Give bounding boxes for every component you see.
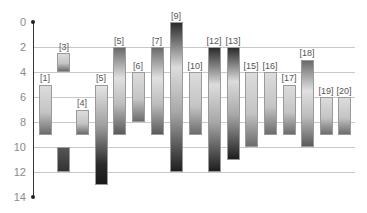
- bar-label-5a: [5]: [89, 73, 113, 83]
- bar-9: [170, 22, 183, 172]
- y-tick-0: 0: [2, 16, 26, 28]
- bar-label-13: [13]: [221, 36, 245, 46]
- bar-label-10: [10]: [183, 61, 207, 71]
- bar-label-7: [7]: [145, 36, 169, 46]
- y-tick-10: 10: [2, 141, 26, 153]
- y-axis-bottom-marker: [31, 195, 35, 199]
- bar-3-upper: [57, 53, 70, 72]
- bar-label-6: [6]: [126, 61, 150, 71]
- bar-10: [189, 72, 202, 135]
- bar-label-3: [3]: [52, 42, 76, 52]
- y-tick-8: 8: [2, 116, 26, 128]
- bar-label-16: [16]: [258, 61, 282, 71]
- bar-label-17: [17]: [277, 73, 301, 83]
- bar-18: [301, 60, 314, 148]
- y-tick-2: 2: [2, 41, 26, 53]
- bar-label-1: [1]: [33, 73, 57, 83]
- bar-1: [39, 85, 52, 135]
- bar-3-lower: [57, 147, 70, 172]
- bar-label-9: [9]: [164, 11, 188, 21]
- floating-bar-chart: 0 2 4 6 8 10 12 14 [1] [3] [4] [5] [5] […: [0, 0, 367, 213]
- bar-17: [283, 85, 296, 135]
- bar-6: [132, 72, 145, 122]
- y-tick-14: 14: [2, 191, 26, 203]
- bar-19: [320, 97, 333, 135]
- bar-16: [264, 72, 277, 135]
- bar-label-5b: [5]: [107, 36, 131, 46]
- bar-7: [151, 47, 164, 135]
- bar-12: [208, 47, 221, 172]
- gridline-12: [33, 172, 355, 173]
- bar-4: [76, 110, 89, 135]
- y-tick-6: 6: [2, 91, 26, 103]
- bar-label-20: [20]: [332, 86, 356, 96]
- y-axis-top-marker: [31, 20, 35, 24]
- gridline-10: [33, 147, 355, 148]
- y-tick-12: 12: [2, 166, 26, 178]
- bar-5b: [113, 47, 126, 135]
- bar-15: [245, 72, 258, 147]
- bar-label-18: [18]: [295, 48, 319, 58]
- bar-20: [338, 97, 351, 135]
- y-axis-line: [33, 22, 34, 197]
- y-tick-4: 4: [2, 66, 26, 78]
- bar-label-4: [4]: [70, 98, 94, 108]
- bar-5a: [95, 85, 108, 185]
